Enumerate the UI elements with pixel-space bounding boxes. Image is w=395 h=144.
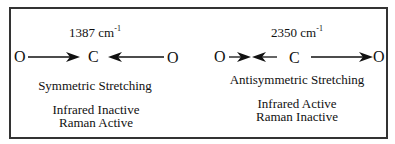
right-oxygen-atom-1: O — [214, 49, 226, 65]
antisymmetric-frequency-label: 2350 cm-1 — [271, 22, 323, 40]
symmetric-raman-activity: Raman Active — [59, 116, 133, 130]
antisymmetric-mode-name: Antisymmetric Stretching — [230, 73, 365, 87]
antisymmetric-raman-activity: Raman Inactive — [256, 110, 338, 124]
right-oxygen-atom-2: O — [373, 49, 385, 65]
right-carbon-atom: C — [289, 50, 300, 66]
symmetric-mode-name: Symmetric Stretching — [38, 79, 152, 93]
